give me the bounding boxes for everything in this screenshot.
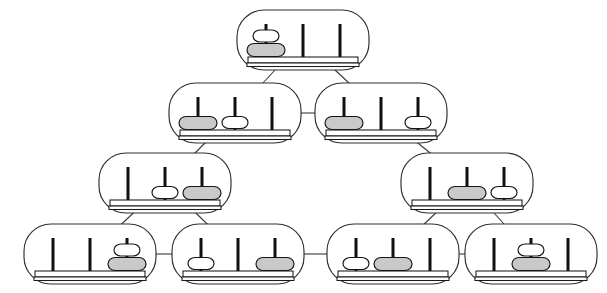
peg-2	[380, 97, 383, 130]
base-plank-upper	[180, 130, 290, 136]
disk-small-peg3	[405, 117, 431, 129]
base-plank-lower	[182, 277, 294, 281]
row2-right-state[interactable]: large on peg 1, small on peg 3	[315, 83, 447, 143]
bottom-state-1[interactable]: both disks on peg 3	[24, 224, 156, 284]
disk-large-peg3	[183, 187, 221, 200]
disk-small-peg3	[491, 187, 517, 199]
base-plank-upper	[183, 271, 293, 277]
base-plank-upper	[326, 130, 436, 136]
disk-large-peg1	[247, 44, 285, 57]
disk-large-peg3	[108, 258, 146, 271]
base-plank-upper	[338, 271, 448, 277]
peg-2	[302, 24, 305, 57]
disk-large-peg1	[325, 117, 363, 130]
base-plank-upper	[110, 200, 220, 206]
disk-large-peg1	[179, 117, 217, 130]
base-plank-upper	[412, 200, 522, 206]
bottom-state-4[interactable]: both disks on peg 2	[465, 224, 597, 284]
disk-small-peg1	[188, 258, 214, 270]
peg-3	[567, 238, 570, 271]
base-plank-lower	[34, 277, 146, 281]
disk-small-peg1	[343, 258, 369, 270]
peg-3	[339, 24, 342, 57]
disk-large-peg2	[512, 258, 550, 271]
base-plank-lower	[475, 277, 587, 281]
base-plank-lower	[337, 277, 449, 281]
disk-large-peg2	[448, 187, 486, 200]
top-state[interactable]: both disks on peg 1	[237, 10, 369, 70]
node-layer: both disks on peg 1large on peg 1, small…	[0, 0, 607, 293]
base-plank-lower	[179, 136, 291, 140]
peg-1	[493, 238, 496, 271]
peg-1	[127, 167, 130, 200]
hanoi-state-graph: both disks on peg 1large on peg 1, small…	[0, 0, 607, 293]
base-plank-upper	[35, 271, 145, 277]
disk-small-peg2	[152, 187, 178, 199]
disk-small-peg3	[114, 244, 140, 256]
peg-1	[52, 238, 55, 271]
base-plank-upper	[248, 57, 358, 63]
peg-2	[237, 238, 240, 271]
peg-3	[429, 238, 432, 271]
row2-left-state[interactable]: large on peg 1, small on peg 2	[169, 83, 301, 143]
base-plank-upper	[476, 271, 586, 277]
peg-2	[89, 238, 92, 271]
bottom-state-3[interactable]: small on peg 1, large on peg 2	[327, 224, 459, 284]
row3-left-state[interactable]: small on peg 2, large on peg 3	[99, 153, 231, 213]
disk-small-peg2	[222, 117, 248, 129]
disk-small-peg2	[518, 244, 544, 256]
base-plank-lower	[325, 136, 437, 140]
base-plank-lower	[109, 206, 221, 210]
bottom-state-2[interactable]: small on peg 1, large on peg 3	[172, 224, 304, 284]
disk-large-peg2	[374, 258, 412, 271]
base-plank-lower	[411, 206, 523, 210]
disk-small-peg1	[253, 30, 279, 42]
base-plank-lower	[247, 63, 359, 67]
peg-1	[429, 167, 432, 200]
disk-large-peg3	[256, 258, 294, 271]
peg-3	[271, 97, 274, 130]
row3-right-state[interactable]: large on peg 2, small on peg 3	[401, 153, 533, 213]
